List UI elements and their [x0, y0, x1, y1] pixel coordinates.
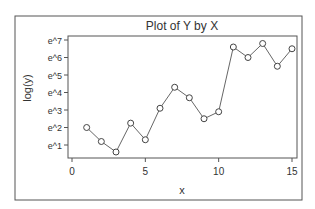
y-tick-label: e^4	[48, 88, 62, 98]
data-point-marker	[260, 41, 266, 47]
x-tick-label: 10	[213, 166, 225, 177]
y-axis-label: log(y)	[21, 74, 33, 102]
data-point-marker	[128, 120, 134, 126]
data-point-marker	[84, 125, 90, 131]
data-point-marker	[172, 84, 178, 90]
y-tick-label: e^6	[48, 53, 62, 63]
chart: Plot of Y by X e^1e^2e^3e^4e^5e^6e^7 051…	[0, 0, 315, 209]
data-point-marker	[245, 55, 251, 61]
data-point-marker	[216, 109, 222, 115]
x-tick-label: 15	[286, 166, 298, 177]
x-tick-label: 0	[69, 166, 75, 177]
y-tick-label: e^5	[48, 71, 62, 81]
y-tick-label: e^1	[48, 141, 62, 151]
x-axis-label: x	[179, 184, 185, 196]
data-point-marker	[274, 63, 280, 69]
chart-title: Plot of Y by X	[146, 19, 218, 33]
data-point-marker	[157, 105, 163, 111]
data-point-marker	[201, 116, 207, 122]
data-point-marker	[230, 44, 236, 50]
data-point-marker	[186, 95, 192, 101]
x-tick-label: 5	[143, 166, 149, 177]
data-point-marker	[289, 46, 295, 52]
y-tick-label: e^7	[48, 36, 62, 46]
y-tick-label: e^2	[48, 123, 62, 133]
data-point-marker	[98, 139, 104, 145]
data-point-marker	[113, 149, 119, 155]
y-tick-label: e^3	[48, 106, 62, 116]
data-point-marker	[142, 137, 148, 143]
